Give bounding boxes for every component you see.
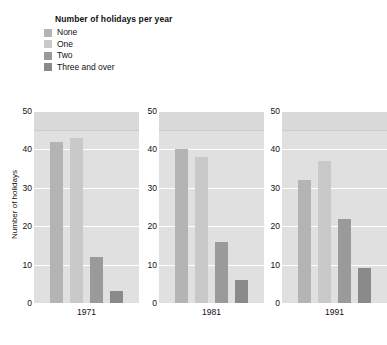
bar-1991-none [298, 180, 311, 303]
y-tick-10: 10 [23, 260, 32, 270]
chart-panel-1971: 504030201001971 [12, 111, 139, 329]
y-tick-40: 40 [23, 144, 32, 154]
bar-1971-one [70, 138, 83, 303]
y-axis-1981: 50403020100 [137, 111, 159, 303]
y-tick-20: 20 [271, 221, 280, 231]
legend-label-three-and-over: Three and over [57, 62, 115, 74]
bar-chart: Number of holidays 504030201001971504030… [0, 105, 377, 345]
legend-label-one: One [57, 39, 73, 51]
bar-1991-two [338, 219, 351, 303]
bar-1991-three-and-over [358, 268, 371, 303]
plot-area-1971 [34, 111, 139, 303]
legend-item-one: One [44, 39, 304, 51]
bar-1991-one [318, 161, 331, 303]
plot-area-1981 [159, 111, 264, 303]
y-axis-1971: 50403020100 [12, 111, 34, 303]
bar-group-1991 [282, 111, 387, 303]
bar-1981-none [175, 149, 188, 303]
y-tick-50: 50 [23, 106, 32, 116]
x-axis-label-1971: 1971 [34, 307, 139, 317]
x-axis-label-1991: 1991 [282, 307, 387, 317]
y-tick-0: 0 [27, 298, 32, 308]
y-tick-40: 40 [271, 144, 280, 154]
y-tick-30: 30 [148, 183, 157, 193]
legend-label-none: None [57, 27, 77, 39]
y-tick-10: 10 [271, 260, 280, 270]
y-tick-40: 40 [148, 144, 157, 154]
chart-legend: Number of holidays per year None One Two… [44, 14, 304, 73]
legend-swatch-two [44, 52, 52, 60]
y-tick-20: 20 [148, 221, 157, 231]
legend-swatch-three-and-over [44, 63, 52, 71]
chart-panel-1991: 504030201001991 [260, 111, 387, 329]
legend-swatch-one [44, 40, 52, 48]
y-tick-0: 0 [152, 298, 157, 308]
y-tick-30: 30 [271, 183, 280, 193]
bar-1981-three-and-over [235, 280, 248, 303]
bar-1971-none [50, 142, 63, 303]
y-tick-50: 50 [148, 106, 157, 116]
legend-item-none: None [44, 27, 304, 39]
y-tick-0: 0 [275, 298, 280, 308]
bar-1981-two [215, 242, 228, 303]
bar-1971-two [90, 257, 103, 303]
bar-group-1981 [159, 111, 264, 303]
legend-label-two: Two [57, 50, 73, 62]
y-tick-20: 20 [23, 221, 32, 231]
plot-area-1991 [282, 111, 387, 303]
y-axis-1991: 50403020100 [260, 111, 282, 303]
bar-1981-one [195, 157, 208, 303]
y-tick-50: 50 [271, 106, 280, 116]
bar-group-1971 [34, 111, 139, 303]
chart-panel-1981: 504030201001981 [137, 111, 264, 329]
y-tick-10: 10 [148, 260, 157, 270]
legend-item-three-and-over: Three and over [44, 62, 304, 74]
x-axis-label-1981: 1981 [159, 307, 264, 317]
y-tick-30: 30 [23, 183, 32, 193]
legend-item-two: Two [44, 50, 304, 62]
legend-title: Number of holidays per year [55, 14, 304, 24]
legend-swatch-none [44, 29, 52, 37]
bar-1971-three-and-over [110, 291, 123, 303]
